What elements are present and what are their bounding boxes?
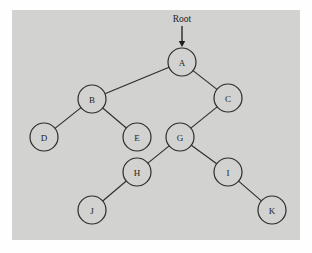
tree-node-e[interactable]: E [123, 123, 151, 151]
node-label-e: E [134, 133, 140, 143]
root-annotation: Root [173, 14, 192, 47]
tree-node-a[interactable]: A [168, 48, 196, 76]
tree-edge-g-i [191, 145, 216, 164]
tree-graphic: ABCDEGHIJK Root [0, 0, 312, 253]
tree-edge-h-j [103, 181, 127, 201]
node-label-i: I [227, 168, 230, 178]
tree-node-d[interactable]: D [30, 123, 58, 151]
tree-edge-b-e [103, 108, 127, 128]
tree-edge-b-d [55, 108, 81, 129]
tree-diagram-screenshot: ABCDEGHIJK Root [0, 0, 312, 253]
tree-node-b[interactable]: B [78, 85, 106, 113]
node-label-h: H [134, 168, 141, 178]
nodes-group: ABCDEGHIJK [30, 48, 286, 224]
node-label-d: D [41, 133, 48, 143]
node-label-k: K [269, 206, 276, 216]
tree-node-c[interactable]: C [214, 84, 242, 112]
tree-node-g[interactable]: G [166, 123, 194, 151]
tree-edge-c-g [191, 107, 217, 128]
tree-edge-a-b [105, 67, 169, 93]
tree-node-h[interactable]: H [123, 158, 151, 186]
tree-node-i[interactable]: I [214, 158, 242, 186]
root-label: Root [173, 14, 192, 24]
tree-node-k[interactable]: K [258, 196, 286, 224]
tree-node-j[interactable]: J [78, 196, 106, 224]
tree-edge-i-k [239, 181, 262, 201]
root-arrow-head [179, 41, 185, 47]
node-label-a: A [179, 58, 186, 68]
node-label-j: J [90, 206, 94, 216]
tree-edge-a-c [193, 71, 217, 90]
node-label-b: B [89, 95, 95, 105]
node-label-c: C [225, 94, 231, 104]
tree-edge-g-h [148, 146, 169, 163]
node-label-g: G [177, 133, 184, 143]
